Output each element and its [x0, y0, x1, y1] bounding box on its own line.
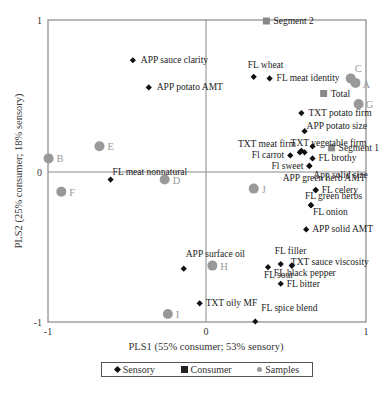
point-label: Fl carrot: [252, 150, 285, 160]
sensory-marker: [306, 163, 312, 169]
point-label: Total: [331, 89, 351, 99]
y-axis-label: PLS2 (25% consumer; 18% sensory): [13, 93, 25, 249]
sensory-marker: [266, 75, 272, 81]
point-label: APP green herb AMT: [283, 173, 366, 183]
point-label: TXT sauce viscosity: [291, 257, 369, 267]
point-label: APP potato AMT: [157, 82, 223, 92]
sample-marker: [346, 73, 356, 83]
x-tick-left: -1: [44, 326, 52, 337]
point-label: APP potato size: [307, 121, 367, 131]
point-label: E: [107, 141, 113, 152]
point-label: A: [362, 79, 370, 90]
y-tick-top: 1: [37, 15, 42, 26]
point-label: APP sauce clarity: [141, 55, 208, 65]
legend-label-sensory: Sensory: [123, 364, 155, 375]
point-label: FL wheat: [248, 60, 284, 70]
point-label: B: [57, 153, 64, 164]
sensory-marker: [181, 266, 187, 272]
point-label: FL brothy: [319, 153, 357, 163]
square-icon: [181, 366, 188, 373]
sensory-marker: [251, 74, 257, 80]
sensory-marker: [287, 152, 293, 158]
point-label: FL meat nonnatural: [113, 167, 188, 177]
y-tick-mid: 0: [37, 167, 42, 178]
point-label: J: [262, 184, 266, 195]
point-label: TXT vegetable firm: [291, 138, 367, 148]
point-label: FL meat identity: [277, 73, 340, 83]
sample-marker: [56, 187, 66, 197]
legend-item-samples: Samples: [257, 364, 299, 375]
point-label: FL green herbs: [305, 191, 362, 201]
point-label: FL bitter: [287, 279, 321, 289]
sensory-marker: [130, 57, 136, 63]
point-label: FL onion: [313, 207, 348, 217]
legend-item-sensory: Sensory: [115, 364, 155, 375]
sensory-marker: [278, 281, 284, 287]
sensory-marker: [298, 110, 304, 116]
x-axis-label: PLS1 (55% consumer; 53% sensory): [128, 341, 284, 353]
circle-icon: [257, 367, 262, 372]
sensory-marker: [146, 84, 152, 90]
y-tick-bottom: -1: [34, 317, 42, 328]
point-label: TXT meat firm: [238, 139, 296, 149]
sample-marker: [44, 153, 54, 163]
point-label: FL spice blend: [261, 303, 317, 313]
sample-marker: [163, 309, 173, 319]
point-label: I: [176, 309, 180, 320]
sample-marker: [207, 261, 217, 271]
point-label: Fl sweet: [271, 161, 303, 171]
point-label: APP surface oil: [186, 249, 246, 259]
diamond-icon: [114, 366, 121, 373]
point-label: TXT potato firm: [308, 108, 372, 118]
point-label: FL filler: [275, 246, 307, 256]
legend-item-consumer: Consumer: [181, 364, 232, 375]
consumer-marker: [263, 18, 270, 25]
legend-label-consumer: Consumer: [191, 364, 232, 375]
sensory-marker: [303, 226, 309, 232]
point-label: H: [220, 261, 228, 272]
sensory-marker: [309, 155, 315, 161]
point-label: C: [355, 63, 362, 74]
x-tick-right: 1: [364, 326, 369, 337]
sensory-marker: [278, 261, 284, 267]
point-label: TXT oily MF: [206, 298, 258, 308]
sample-marker: [94, 141, 104, 151]
point-label: F: [69, 187, 75, 198]
sample-marker: [249, 184, 259, 194]
sensory-marker: [252, 318, 258, 324]
legend-label-samples: Samples: [265, 364, 299, 375]
legend: Sensory Consumer Samples: [101, 362, 313, 377]
point-label: Segment 2: [273, 16, 314, 26]
pls-biplot: 1 0 -1 -1 0 1 PLS1 (55% consumer; 53% se…: [0, 0, 391, 394]
data-points: ACGBEFDJHISegment 2TotalSegment 1APP sau…: [44, 16, 380, 325]
point-label: FL black pepper: [274, 268, 337, 278]
sensory-marker: [197, 300, 203, 306]
x-tick-mid: 0: [204, 326, 209, 337]
sensory-marker: [107, 176, 113, 182]
point-label: APP solid AMT: [312, 224, 373, 234]
consumer-marker: [320, 90, 327, 97]
